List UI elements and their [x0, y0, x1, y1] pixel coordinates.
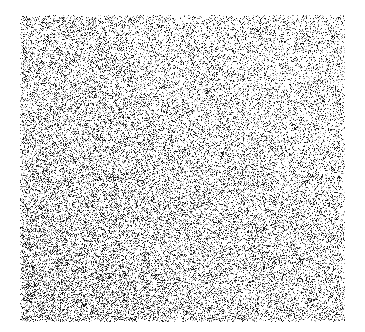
page-root — [0, 0, 365, 332]
noise-field-canvas — [0, 0, 365, 332]
